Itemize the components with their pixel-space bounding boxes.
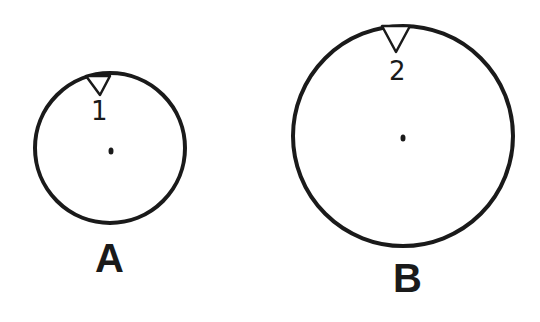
pointer-triangle-icon [382,26,410,52]
marker-number-1: 1 [91,98,108,124]
center-dot [109,148,114,155]
center-dot [401,135,406,142]
marker-number-2: 2 [389,58,406,84]
diagram-canvas [0,0,540,322]
circle-label-b: B [393,258,422,298]
pointer-triangle-icon [86,76,110,95]
circle-a [35,73,185,223]
circle-label-a: A [95,238,124,278]
